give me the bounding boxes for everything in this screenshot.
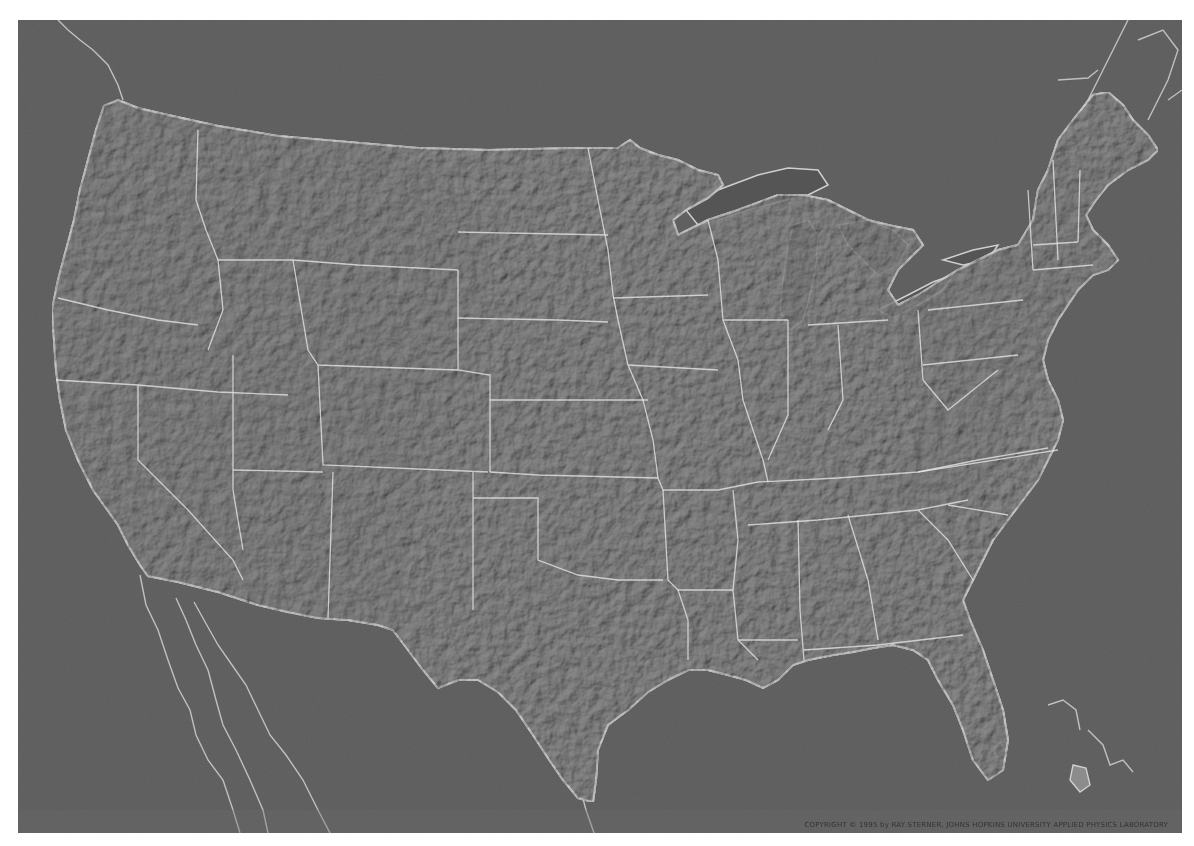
map-frame: COPYRIGHT © 1995 by RAY STERNER, JOHNS H… [18, 20, 1182, 833]
copyright-text: COPYRIGHT © 1995 by RAY STERNER, JOHNS H… [804, 821, 1168, 829]
relief-map [18, 20, 1182, 833]
